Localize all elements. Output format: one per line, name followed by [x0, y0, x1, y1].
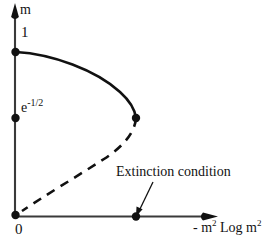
extinction-condition-figure: m 1 e-1/2 0 - m2 Log m2 Extinction condi…: [0, 0, 273, 245]
x-axis: [15, 212, 218, 220]
y-axis-arrowhead: [11, 3, 19, 19]
y-axis: [11, 3, 19, 215]
marker-turning-point: [132, 114, 140, 122]
x-axis-label: - m2 Log m2: [193, 221, 262, 235]
y-tick-label-e-minus-half: e-1/2: [21, 101, 43, 115]
e-exponent: -1/2: [27, 97, 43, 108]
extinction-condition-annotation: Extinction condition: [116, 165, 231, 179]
extinction-leader-arrow: [136, 182, 153, 217]
origin-label: 0: [15, 222, 23, 237]
marker-m-equals-one: [11, 48, 19, 56]
y-tick-label-one: 1: [21, 25, 29, 40]
marker-origin: [11, 211, 19, 219]
x-label-exponent-2: 2: [257, 218, 262, 228]
x-label-prefix: - m: [193, 220, 212, 235]
y-axis-label: m: [20, 3, 31, 17]
marker-e-minus-half: [11, 114, 19, 122]
plot-canvas: [0, 0, 273, 245]
x-label-mid: Log m: [217, 220, 257, 235]
marker-extinction-point: [132, 212, 140, 220]
